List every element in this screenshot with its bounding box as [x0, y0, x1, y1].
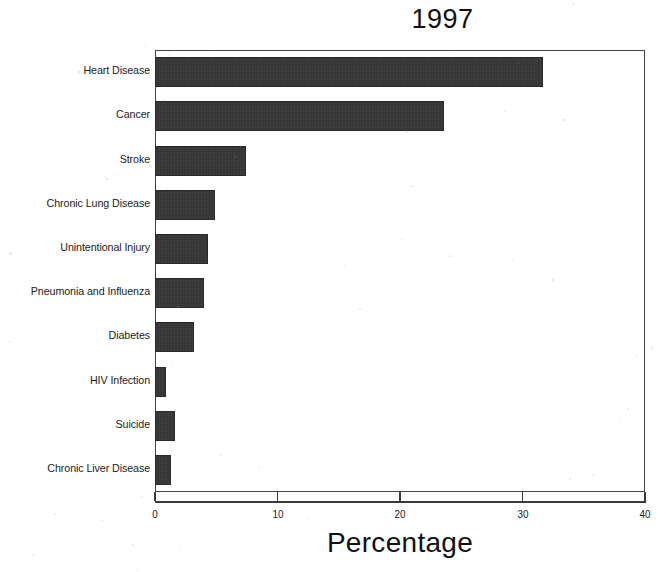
x-axis-title: Percentage — [155, 527, 645, 559]
bar-row — [155, 190, 645, 220]
bar-heart-disease — [155, 57, 543, 87]
bar-row — [155, 146, 645, 176]
bar-row — [155, 278, 645, 308]
x-tick-mark — [154, 492, 156, 501]
scan-speck — [32, 554, 34, 556]
scan-speck — [651, 346, 654, 349]
x-tick-mark — [522, 492, 524, 501]
scan-speck — [132, 544, 134, 546]
x-tick-label: 20 — [382, 508, 418, 520]
x-tick-label: 40 — [627, 508, 663, 520]
y-axis-label: Stroke — [11, 153, 151, 165]
scan-speck — [144, 46, 146, 48]
x-tick-mark — [277, 492, 279, 501]
x-tick-label: 0 — [137, 508, 173, 520]
x-tick-mark — [399, 492, 401, 501]
y-axis-label: Heart Disease — [11, 64, 151, 76]
scan-speck — [137, 569, 138, 570]
scan-speck — [531, 570, 532, 571]
x-tick-label: 30 — [505, 508, 541, 520]
y-axis-label: Unintentional Injury — [11, 241, 151, 253]
x-tick-mark — [644, 492, 646, 501]
bar-chart-figure: 1997 Heart DiseaseCancerStrokeChronic Lu… — [0, 0, 669, 572]
bar-cancer — [155, 101, 444, 131]
bar-chronic-liver-disease — [155, 455, 171, 485]
bar-hiv-infection — [155, 367, 166, 397]
y-axis-label: Cancer — [11, 108, 151, 120]
y-axis-label: Pneumonia and Influenza — [11, 285, 151, 297]
x-tick-label: 10 — [260, 508, 296, 520]
chart-title: 1997 — [155, 2, 669, 36]
bar-row — [155, 57, 645, 87]
y-axis-label: Chronic Liver Disease — [11, 462, 151, 474]
bar-pneumonia-and-influenza — [155, 278, 204, 308]
bar-suicide — [155, 411, 175, 441]
bar-row — [155, 101, 645, 131]
plot-area — [155, 50, 645, 492]
y-axis-label: Diabetes — [11, 329, 151, 341]
x-axis-ticks — [0, 492, 669, 504]
bar-row — [155, 367, 645, 397]
bar-unintentional-injury — [155, 234, 208, 264]
y-axis-label: Chronic Lung Disease — [11, 197, 151, 209]
bar-row — [155, 411, 645, 441]
bar-row — [155, 455, 645, 485]
bar-row — [155, 234, 645, 264]
y-axis-category-labels: Heart DiseaseCancerStrokeChronic Lung Di… — [0, 50, 150, 492]
x-axis-tick-labels: 010203040 — [0, 508, 669, 524]
bar-row — [155, 322, 645, 352]
bar-chronic-lung-disease — [155, 190, 215, 220]
y-axis-label: HIV Infection — [11, 374, 151, 386]
y-axis-label: Suicide — [11, 418, 151, 430]
bar-diabetes — [155, 322, 194, 352]
bar-stroke — [155, 146, 246, 176]
